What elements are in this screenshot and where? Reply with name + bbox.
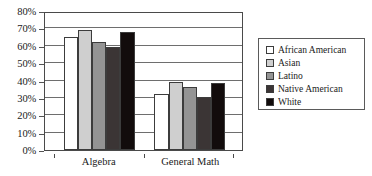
bar-white-algebra — [120, 32, 134, 150]
legend-swatch-icon — [266, 72, 274, 80]
x-axis-tick-mark — [144, 154, 145, 158]
plot-area — [44, 12, 243, 151]
y-axis-tick-label: 20% — [0, 111, 36, 121]
chart-legend: African AmericanAsianLatinoNative Americ… — [258, 38, 365, 110]
legend-swatch-icon — [266, 85, 274, 93]
legend-item-label: Asian — [278, 58, 300, 68]
y-axis-tick-label: 60% — [0, 42, 36, 52]
bar-african-american-general-math — [154, 94, 168, 151]
y-axis-tick-label: 30% — [0, 94, 36, 104]
legend-item-white[interactable]: White — [266, 96, 364, 109]
y-axis-tick-label: 0% — [0, 146, 36, 156]
y-axis-tick-label: 40% — [0, 77, 36, 87]
legend-swatch-icon — [266, 98, 274, 106]
legend-item-label: White — [278, 97, 301, 107]
legend-swatch-icon — [266, 46, 274, 54]
bar-chart: 0%10%20%30%40%50%60%70%80% AlgebraGenera… — [0, 0, 372, 176]
bar-group-general-math — [154, 13, 225, 150]
bar-native-american-general-math — [197, 97, 211, 150]
legend-item-label: Native American — [278, 84, 343, 94]
y-axis-tick-label: 10% — [0, 129, 36, 139]
bar-african-american-algebra — [64, 37, 78, 150]
legend-item-asian[interactable]: Asian — [266, 57, 364, 70]
bar-native-american-algebra — [106, 47, 120, 150]
bar-asian-algebra — [78, 30, 92, 150]
x-axis-tick-label: General Math — [161, 156, 219, 167]
y-axis: 0%10%20%30%40%50%60%70%80% — [0, 0, 44, 176]
legend-swatch-icon — [266, 59, 274, 67]
legend-item-african-american[interactable]: African American — [266, 44, 364, 57]
bar-asian-general-math — [169, 82, 183, 151]
x-axis: AlgebraGeneral Math — [44, 154, 243, 174]
y-axis-tick-mark — [39, 151, 44, 152]
bar-white-general-math — [211, 83, 225, 150]
y-axis-tick-label: 70% — [0, 24, 36, 34]
y-axis-tick-label: 50% — [0, 59, 36, 69]
legend-item-latino[interactable]: Latino — [266, 70, 364, 83]
bar-latino-algebra — [92, 42, 106, 150]
legend-item-native-american[interactable]: Native American — [266, 83, 364, 96]
x-axis-tick-label: Algebra — [82, 156, 116, 167]
y-axis-tick-label: 80% — [0, 7, 36, 17]
bar-group-algebra — [64, 13, 135, 150]
legend-item-label: Latino — [278, 71, 303, 81]
x-axis-tick-mark — [233, 154, 234, 158]
bar-latino-general-math — [183, 87, 197, 150]
x-axis-tick-mark — [54, 154, 55, 158]
legend-item-label: African American — [278, 45, 346, 55]
